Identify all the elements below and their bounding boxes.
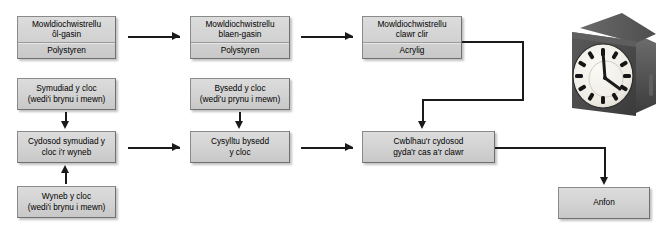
- arrowhead-backcase-to-frontcase: [172, 32, 180, 40]
- node-line-process: Mowldiochwistrellu: [32, 19, 101, 30]
- node-final-assembly[interactable]: Cwblhau'r cydosod gyda'r cas a'r clawr: [362, 131, 495, 163]
- connector-clearcover-down: [522, 41, 524, 101]
- node-text-segment: Symudiad y cloc (wedi'i brynu i mewn): [18, 79, 115, 109]
- node-mould-clear-cover[interactable]: Mowldiochwistrellu clawr clir Acrylig: [362, 16, 462, 59]
- node-clock-movement[interactable]: Symudiad y cloc (wedi'i brynu i mewn): [17, 78, 116, 110]
- node-material-segment: Polystyren: [18, 42, 115, 58]
- connector-face-to-assemble: [65, 173, 67, 184]
- arrowhead-final-to-dispatch: [600, 177, 608, 185]
- node-line-detail: ôl-gasin: [52, 29, 81, 40]
- connector-final-down-to-dispatch: [604, 147, 606, 179]
- node-line-2: gyda'r cas a'r clawr: [393, 147, 464, 158]
- node-clock-face[interactable]: Wyneb y cloc (wedi'i brynu i mewn): [17, 186, 116, 218]
- node-line-process: Mowldiochwistrellu: [377, 19, 446, 30]
- node-line-1: Cwblhau'r cydosod: [394, 136, 464, 147]
- node-line-1: Symudiad y cloc: [36, 83, 96, 94]
- node-line-material: Polystyren: [47, 45, 86, 56]
- connector-clearcover-into-final: [422, 99, 424, 123]
- arrowhead-clearcover-to-final: [418, 121, 426, 129]
- arrowhead-frontcase-to-clearcover: [345, 32, 353, 40]
- arrowhead-hands-to-attach: [235, 121, 243, 129]
- connector-clearcover-right: [462, 41, 524, 43]
- node-line-2: y cloc: [229, 147, 250, 158]
- node-text-segment: Cydosod symudiad y cloc i'r wyneb: [18, 132, 115, 162]
- node-process-segment: Mowldiochwistrellu ôl-gasin: [18, 17, 115, 42]
- node-line-1: Bysedd y cloc: [214, 83, 265, 94]
- node-mould-front-case[interactable]: Mowldiochwistrellu blaen-gasin Polystyre…: [190, 16, 290, 59]
- node-assemble-movement-to-face[interactable]: Cydosod symudiad y cloc i'r wyneb: [17, 131, 116, 163]
- node-line-2: (wedi'i brynu i mewn): [28, 94, 106, 105]
- node-line-material: Polystyren: [221, 45, 260, 56]
- node-process-segment: Mowldiochwistrellu blaen-gasin: [191, 17, 289, 42]
- node-line-1: Wyneb y cloc: [42, 191, 91, 202]
- node-line-2: cloc i'r wyneb: [42, 147, 92, 158]
- node-text-segment: Wyneb y cloc (wedi'i brynu i mewn): [18, 187, 115, 217]
- arrowhead-assemble-to-attach: [172, 143, 180, 151]
- node-line-2: (wedi'i brynu i mewn): [28, 202, 106, 213]
- node-line-1: Cysylltu bysedd: [211, 136, 269, 147]
- node-text-segment: Cysylltu bysedd y cloc: [191, 132, 289, 162]
- node-process-segment: Mowldiochwistrellu clawr clir: [363, 17, 461, 42]
- connector-final-to-dispatch: [495, 147, 606, 149]
- arrowhead-attach-to-final: [345, 143, 353, 151]
- node-text-segment: Bysedd y cloc (wedi'u prynu i mewn): [191, 79, 289, 109]
- clock-case-side: [636, 34, 656, 113]
- node-line-process: Mowldiochwistrellu: [205, 19, 274, 30]
- clock-minute-hand: [603, 52, 605, 78]
- connector-clearcover-left: [422, 99, 524, 101]
- node-line-detail: clawr clir: [396, 29, 428, 40]
- flowchart-diagram: Mowldiochwistrellu ôl-gasin Polystyren M…: [0, 0, 667, 231]
- clock-side-detail: [649, 74, 653, 96]
- node-line-material: Acrylig: [400, 45, 425, 56]
- node-clock-hands[interactable]: Bysedd y cloc (wedi'u prynu i mewn): [190, 78, 290, 110]
- node-attach-hands[interactable]: Cysylltu bysedd y cloc: [190, 131, 290, 163]
- node-text-segment: Cwblhau'r cydosod gyda'r cas a'r clawr: [363, 132, 494, 162]
- node-material-segment: Acrylig: [363, 42, 461, 58]
- node-material-segment: Polystyren: [191, 42, 289, 58]
- node-line-detail: blaen-gasin: [219, 29, 262, 40]
- node-mould-back-case[interactable]: Mowldiochwistrellu ôl-gasin Polystyren: [17, 16, 116, 59]
- arrowhead-face-to-assemble: [61, 165, 69, 173]
- desk-clock-photo: [566, 8, 662, 126]
- arrowhead-movement-to-assemble: [61, 121, 69, 129]
- clock-hand-pivot: [603, 76, 607, 80]
- node-line-2: (wedi'u prynu i mewn): [200, 94, 280, 105]
- node-line-1: Anfon: [593, 197, 615, 208]
- node-line-1: Cydosod symudiad y: [28, 136, 105, 147]
- node-text-segment: Anfon: [559, 188, 649, 218]
- node-dispatch[interactable]: Anfon: [558, 187, 650, 219]
